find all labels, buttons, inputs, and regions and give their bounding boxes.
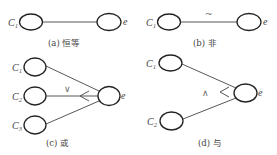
or-edge-1 — [46, 66, 99, 91]
effect-label: e — [123, 16, 128, 27]
effect-label: e — [121, 90, 126, 101]
cause-label: C — [12, 62, 19, 73]
and-operator-symbol: ∧ — [202, 88, 209, 98]
caption-identity: (a) 恒等 — [48, 38, 80, 48]
cause-node-c1 — [20, 14, 43, 30]
caption-and: (d) 与 — [198, 138, 222, 148]
caption-or: (c) 或 — [46, 138, 69, 148]
cause-subscript: 2 — [154, 122, 157, 128]
not-operator-symbol: ~ — [205, 9, 213, 19]
effect-label: e — [258, 87, 263, 98]
cause-node-c1 — [158, 14, 181, 30]
cause-subscript: 1 — [153, 23, 156, 29]
effect-node — [234, 84, 257, 102]
cause-label: C — [12, 91, 19, 102]
caption-not: (b) 非 — [193, 38, 217, 48]
cause-node-c2 — [160, 112, 183, 130]
panel-and: C 1 C 2 ∧ e (d) 与 — [146, 55, 263, 148]
cause-label: C — [12, 120, 19, 131]
cause-label: C — [146, 58, 153, 69]
cause-label: C — [8, 17, 15, 28]
cause-subscript: 1 — [153, 64, 156, 70]
and-edge-1 — [182, 64, 236, 88]
effect-node — [98, 87, 120, 106]
effect-node — [237, 14, 261, 31]
and-edge-2 — [183, 98, 236, 119]
cause-node-c2 — [24, 87, 46, 105]
effect-node — [97, 14, 121, 31]
panel-not: C 1 ~ e (b) 非 — [146, 9, 268, 48]
cause-node-c1 — [24, 58, 46, 76]
cause-effect-diagrams: C 1 e (a) 恒等 C 1 ~ e (b) 非 C 1 C 2 C 3 ∨… — [0, 0, 277, 155]
cause-node-c3 — [24, 116, 46, 134]
cause-label: C — [146, 17, 153, 28]
or-operator-symbol: ∨ — [64, 84, 71, 94]
and-arrow-icon — [220, 87, 229, 97]
panel-or: C 1 C 2 C 3 ∨ e (c) 或 — [12, 58, 126, 148]
cause-node-c1 — [159, 55, 182, 71]
cause-subscript: 1 — [15, 23, 18, 29]
cause-label: C — [147, 116, 154, 127]
cause-subscript: 1 — [19, 68, 22, 74]
cause-subscript: 2 — [19, 97, 22, 103]
cause-subscript: 3 — [18, 126, 22, 132]
effect-label: e — [263, 16, 268, 27]
or-edge-3 — [46, 101, 99, 124]
panel-identity: C 1 e (a) 恒等 — [8, 14, 128, 49]
